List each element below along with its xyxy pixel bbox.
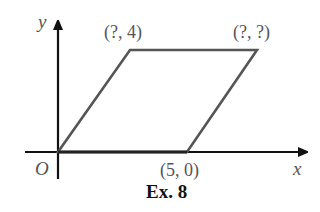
origin-label: O	[35, 158, 49, 179]
y-axis-label: y	[36, 11, 47, 32]
vertex-label-top-right: (?, ?)	[233, 22, 270, 43]
parallelogram-diagram: y x O (?, 4) (?, ?) (5, 0) Ex. 8	[0, 0, 320, 212]
figure-caption: Ex. 8	[146, 181, 187, 202]
vertex-label-top-left: (?, 4)	[104, 22, 142, 43]
x-axis-label: x	[292, 158, 302, 179]
vertex-label-bottom-right: (5, 0)	[160, 160, 199, 181]
parallelogram-shape	[58, 50, 257, 152]
